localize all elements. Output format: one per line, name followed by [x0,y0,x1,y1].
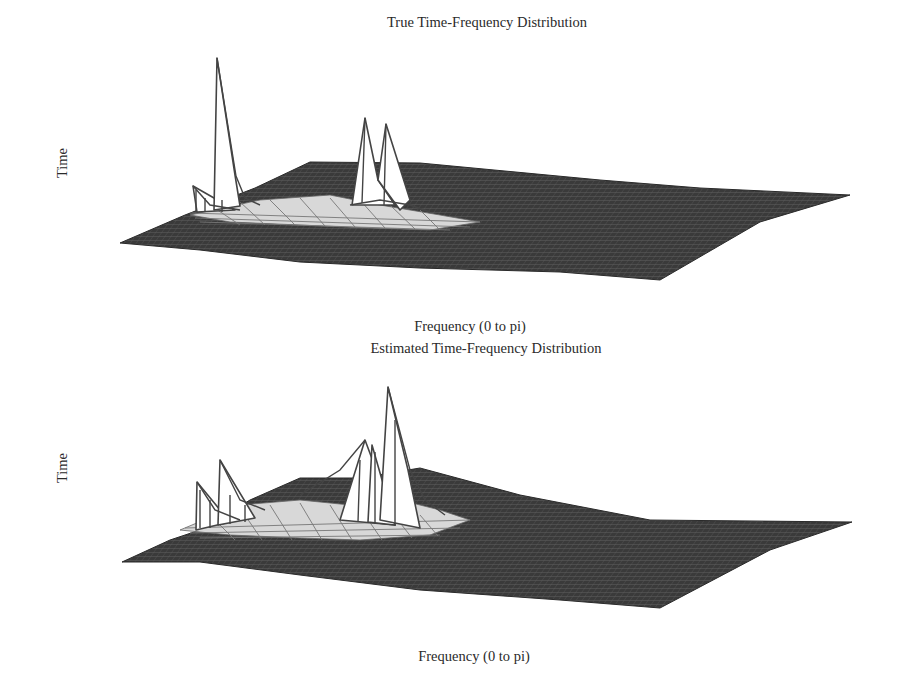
top-surface [120,58,850,280]
bottom-surface [122,387,852,608]
surface-plots [0,0,902,689]
